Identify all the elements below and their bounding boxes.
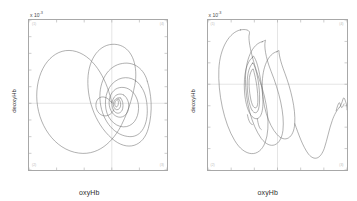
figure-two-panel-hemodynamic-plots: x 10-3 <box>0 0 357 201</box>
panel-right: x 10-3 <box>179 0 357 201</box>
left-xtick-labels: -0.015 -0.01 -0.005 0 0.005 0.01 <box>29 20 167 170</box>
left-y-axis-label: deoxyHb <box>11 89 17 113</box>
left-x-axis-label: oxyHb <box>0 189 179 196</box>
right-x-axis-label: oxyHb <box>179 189 357 196</box>
right-exponent-label: x 10-3 <box>209 12 222 18</box>
left-exponent-label: x 10-3 <box>30 12 43 18</box>
right-y-axis-label: deoxyHb <box>189 89 195 113</box>
panel-left: x 10-3 <box>0 0 179 201</box>
right-xtick-labels: -0.06 -0.04 -0.02 0 0.02 0.04 0.06 <box>208 20 347 170</box>
left-plot-area: (1) (4) (2) (3) 4 3 2 1 0 -1 -2 -3 -4 -5… <box>28 19 168 171</box>
right-plot-area: (1) (4) (2) (3) 6 4 2 0 -2 -4 -6 -8 -0.0… <box>207 19 348 171</box>
